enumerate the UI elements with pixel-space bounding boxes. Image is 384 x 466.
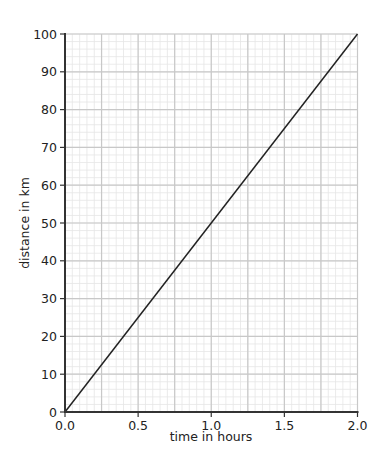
y-tick-label: 60 <box>41 178 57 193</box>
y-tick-label: 10 <box>41 367 57 382</box>
x-tick-label: 0.0 <box>55 418 75 433</box>
y-tick-label: 70 <box>41 140 57 155</box>
y-tick-label: 40 <box>41 253 57 268</box>
y-tick-label: 100 <box>33 27 57 42</box>
x-tick-label: 0.5 <box>128 418 148 433</box>
x-tick-label: 1.5 <box>274 418 294 433</box>
y-tick-label: 0 <box>49 405 57 420</box>
y-axis-ticks: 0102030405060708090100 <box>33 27 65 420</box>
x-axis-title: time in hours <box>170 429 253 444</box>
y-tick-label: 80 <box>41 102 57 117</box>
x-tick-label: 2.0 <box>348 418 368 433</box>
y-tick-label: 30 <box>41 291 57 306</box>
y-tick-label: 50 <box>41 216 57 231</box>
distance-time-chart: 0.00.51.01.52.0 0102030405060708090100 t… <box>0 0 384 466</box>
y-tick-label: 20 <box>41 329 57 344</box>
y-axis-title: distance in km <box>17 177 32 269</box>
y-tick-label: 90 <box>41 64 57 79</box>
